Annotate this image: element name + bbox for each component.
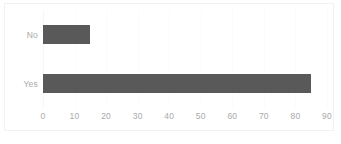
category-axis-labels: NoYes bbox=[5, 10, 38, 108]
chart-frame: NoYes 0102030405060708090 bbox=[4, 3, 334, 131]
x-tick-label-30: 30 bbox=[133, 112, 143, 121]
x-tick-label-80: 80 bbox=[291, 112, 301, 121]
bar-yes[interactable] bbox=[43, 74, 311, 93]
x-tick-label-50: 50 bbox=[196, 112, 206, 121]
bar-no[interactable] bbox=[43, 25, 90, 44]
x-tick-label-40: 40 bbox=[164, 112, 174, 121]
x-tick-label-20: 20 bbox=[101, 112, 111, 121]
gridline-90 bbox=[327, 10, 328, 108]
x-tick-label-70: 70 bbox=[259, 112, 269, 121]
value-axis-labels: 0102030405060708090 bbox=[43, 112, 327, 126]
x-tick-label-10: 10 bbox=[70, 112, 80, 121]
x-tick-label-0: 0 bbox=[41, 112, 46, 121]
category-label-no: No bbox=[27, 31, 38, 40]
bar-row bbox=[43, 74, 327, 93]
bar-row bbox=[43, 25, 327, 44]
plot-area bbox=[43, 10, 327, 108]
x-tick-label-60: 60 bbox=[227, 112, 237, 121]
x-tick-label-90: 90 bbox=[322, 112, 332, 121]
category-label-yes: Yes bbox=[24, 80, 38, 89]
